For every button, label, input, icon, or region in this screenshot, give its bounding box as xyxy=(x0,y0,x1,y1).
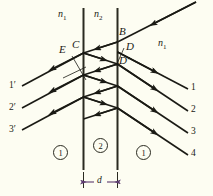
transmitted-ray-1prime xyxy=(22,53,84,86)
diagram-canvas xyxy=(0,0,213,196)
ray-label-4: 4 xyxy=(191,149,196,159)
internal-reflection-c-to-d1 xyxy=(84,53,118,64)
thickness-label: d xyxy=(97,176,102,186)
ray-label-1-prime: 1′ xyxy=(9,81,16,91)
emergent-ray-4 xyxy=(118,108,189,155)
internal-reflection-d1-to-c2 xyxy=(84,64,118,75)
point-label-b: B xyxy=(119,26,126,37)
internal-ray-bc xyxy=(84,42,118,53)
point-label-c: C xyxy=(72,39,79,50)
optics-slab-diagram: n1 n2 n1 B C D E D′ 1′ 2′ 3′ 1 2 3 4 1 2… xyxy=(0,0,213,196)
ray-label-3-prime: 3′ xyxy=(9,125,16,135)
point-label-d: D xyxy=(126,41,134,52)
ray-label-2: 2 xyxy=(191,105,196,115)
point-label-e: E xyxy=(59,44,66,55)
refractive-index-middle: n2 xyxy=(94,9,103,22)
internal-reflection-c3-to-d3 xyxy=(84,97,118,108)
transmitted-ray-2prime xyxy=(22,75,84,108)
internal-reflection-d2-to-c3 xyxy=(84,86,118,97)
transmitted-ray-3prime xyxy=(22,97,84,130)
ray-label-1: 1 xyxy=(191,83,196,93)
ray-label-3: 3 xyxy=(191,127,196,137)
ray-label-2-prime: 2′ xyxy=(9,103,16,113)
refractive-index-right: n1 xyxy=(158,38,167,51)
region-badge-right: 1 xyxy=(136,145,151,160)
region-badge-middle: 2 xyxy=(93,138,108,153)
refractive-index-left: n1 xyxy=(58,9,67,22)
point-label-d-prime: D′ xyxy=(119,55,129,66)
incident-ray xyxy=(118,2,197,42)
internal-reflection-d3-to-c4 xyxy=(84,108,118,119)
region-badge-left: 1 xyxy=(53,145,68,160)
internal-reflection-c2-to-d2 xyxy=(84,75,118,86)
emergent-ray-3 xyxy=(118,86,189,133)
